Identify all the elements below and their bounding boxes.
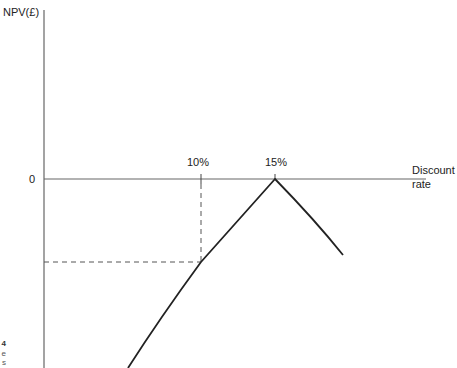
side-caption-fragment: 4 [0,339,6,348]
side-caption-fragment: s [0,358,6,367]
side-caption-fragment: e [0,349,6,358]
npv-diagram [0,0,457,368]
tick-label-10: 10% [187,156,209,169]
npv-curve [128,179,343,368]
y-axis-label: NPV(£) [3,6,39,19]
zero-label: 0 [29,173,35,186]
x-axis-label-line2: rate [412,178,431,191]
x-axis-label-line1: Discount [412,164,455,177]
tick-label-15: 15% [265,156,287,169]
